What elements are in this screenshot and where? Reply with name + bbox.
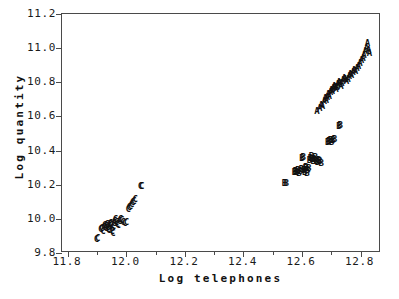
- x-axis-minor-tick: [331, 251, 332, 255]
- x-axis-minor-tick: [273, 251, 274, 255]
- y-axis-tick-label: 10.6: [27, 110, 56, 121]
- x-axis-tick-label: 12.4: [228, 256, 257, 267]
- x-axis-tick-label: 12.0: [111, 256, 140, 267]
- data-point-marker-b: B: [319, 158, 324, 167]
- y-axis-tick-label: 10.8: [27, 76, 56, 87]
- y-axis-tick-label: 11.0: [27, 42, 56, 53]
- y-axis-tick-label: 10.2: [27, 178, 56, 189]
- y-axis-tick-label: 11.2: [27, 8, 56, 19]
- x-axis-tick-labels: 11.812.012.212.412.612.8: [61, 256, 380, 272]
- data-points-layer: AAAAAAAAAAAAAAAAAAAAAAAAAAAAAAAAAAAAAAAA…: [62, 14, 379, 251]
- data-point-marker-b: B: [332, 135, 337, 144]
- y-axis-tick: [56, 253, 62, 254]
- x-axis-tick-label: 12.6: [287, 256, 316, 267]
- data-point-marker-c: C: [124, 217, 129, 226]
- x-axis-tick-label: 12.8: [345, 256, 374, 267]
- plot-area: AAAAAAAAAAAAAAAAAAAAAAAAAAAAAAAAAAAAAAAA…: [61, 13, 380, 252]
- x-axis-minor-tick: [156, 251, 157, 255]
- y-axis-tick-label: 10.4: [27, 144, 56, 155]
- x-axis-tick-label: 11.8: [52, 256, 81, 267]
- scatter-plot-figure: Log quantity 9.810.010.210.410.610.811.0…: [0, 0, 399, 299]
- x-axis-minor-tick: [97, 251, 98, 255]
- data-point-marker-b: B: [338, 121, 343, 130]
- y-axis-tick-labels: 9.810.010.210.410.610.811.011.2: [0, 13, 56, 252]
- x-axis-tick-label: 12.2: [169, 256, 198, 267]
- x-axis-minor-tick: [214, 251, 215, 255]
- data-point-marker-b: B: [283, 178, 288, 187]
- x-axis-title: Log telephones: [61, 272, 380, 285]
- data-point-marker-a: A: [367, 49, 372, 58]
- data-point-marker-c: C: [132, 195, 137, 204]
- data-point-marker-c: C: [139, 181, 144, 190]
- y-axis-tick-label: 10.0: [27, 212, 56, 223]
